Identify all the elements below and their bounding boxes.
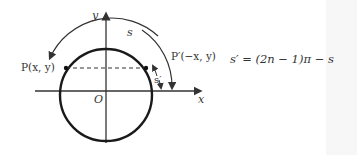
point-p-label: P(x, y) xyxy=(21,61,55,73)
arc-s-prime-label: s′ xyxy=(154,74,162,85)
y-axis-label: y xyxy=(91,9,99,22)
point-p-prime xyxy=(144,66,148,70)
x-axis-label: x xyxy=(198,93,205,106)
arc-s-label: s xyxy=(127,26,133,39)
arc-s xyxy=(50,18,158,58)
unit-circle-diagram: y x O s s′ P(x, y) P′(−x, y) s′ = (2n − … xyxy=(0,0,357,155)
equation: s′ = (2n − 1)π − s xyxy=(230,52,334,66)
point-p-prime-label: P′(−x, y) xyxy=(171,50,216,62)
origin-label: O xyxy=(94,93,103,106)
point-p xyxy=(64,66,68,70)
